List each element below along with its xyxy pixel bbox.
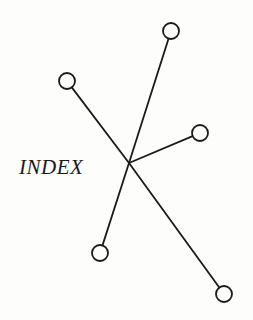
node-bottom-left-circle xyxy=(92,245,108,261)
index-label: INDEX xyxy=(19,157,83,178)
node-top-circle xyxy=(163,23,179,39)
node-upper-left-circle xyxy=(59,73,75,89)
edge-bottom-right xyxy=(129,163,219,288)
edge-bottom-left xyxy=(103,163,130,245)
edge-upper-left xyxy=(72,87,129,163)
edges xyxy=(72,39,220,288)
node-bottom-right-circle xyxy=(216,286,232,302)
edge-top xyxy=(129,39,169,163)
edge-right xyxy=(129,136,193,163)
diagram-canvas: INDEX xyxy=(0,0,253,320)
node-right-circle xyxy=(192,125,208,141)
nodes xyxy=(59,23,232,302)
